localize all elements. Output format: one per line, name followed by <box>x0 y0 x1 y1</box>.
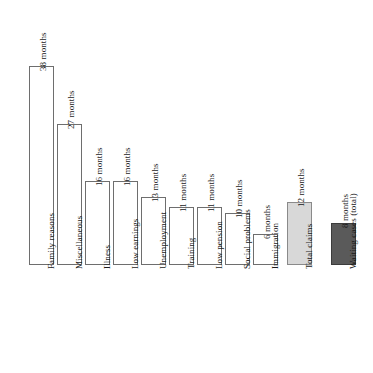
category-label: Training <box>187 238 196 269</box>
category-label: Illness <box>103 245 112 269</box>
bar-chart: 38 monthsFamily reasons27 monthsMiscella… <box>0 0 373 373</box>
bar-value-label: 13 months <box>151 163 160 202</box>
category-label: Total claims <box>305 224 314 269</box>
category-label: Low pension <box>215 221 224 269</box>
bar-value-label: 38 months <box>39 32 48 71</box>
category-label: Low earnings <box>131 219 140 269</box>
bar-value-label: 12 months <box>297 168 306 207</box>
category-label: Unemployment <box>159 212 168 269</box>
category-label: Social problems <box>243 209 252 269</box>
category-label: Miscellaneous <box>75 216 84 269</box>
plot-area: 38 monthsFamily reasons27 monthsMiscella… <box>0 0 373 373</box>
category-label: Immigration <box>271 223 280 269</box>
category-label: Family reasons <box>47 213 56 269</box>
bar-value-label: 27 months <box>67 90 76 129</box>
bar-value-label: 16 months <box>95 147 104 186</box>
bar-value-label: 11 months <box>179 174 188 212</box>
bar-value-label: 16 months <box>123 147 132 186</box>
category-label: Waiting cases (total) <box>349 193 358 269</box>
bar-value-label: 11 months <box>207 174 216 212</box>
